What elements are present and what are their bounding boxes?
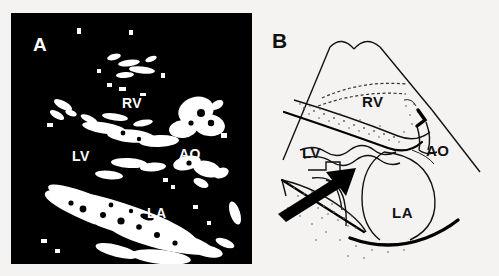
schematic-label-la: LA bbox=[392, 204, 413, 221]
schematic-label-rv: RV bbox=[362, 93, 384, 110]
echo-label-lv: LV bbox=[72, 148, 90, 164]
echo-label-rv: RV bbox=[122, 95, 142, 111]
panel-letter-b: B bbox=[272, 29, 287, 52]
panel-a-echocardiogram: A RV LV AO LA bbox=[11, 13, 252, 264]
schematic-label-lv: LV bbox=[302, 144, 321, 161]
septum-band bbox=[284, 100, 430, 150]
figure-container: A RV LV AO LA bbox=[0, 0, 499, 276]
schematic-label-ao: AO bbox=[426, 142, 450, 159]
echo-label-ao: AO bbox=[179, 146, 201, 162]
panel-letter-a: A bbox=[33, 34, 47, 55]
dissection-flap-arrow bbox=[278, 168, 356, 222]
panel-b-schematic: B RV LV AO LA bbox=[252, 0, 499, 276]
la-chamber bbox=[350, 150, 458, 245]
echo-label-la: LA bbox=[147, 205, 167, 221]
